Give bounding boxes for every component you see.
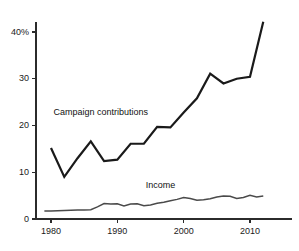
series-line-campaign-contributions xyxy=(51,22,263,177)
series-label-income: Income xyxy=(146,180,176,190)
x-tick-label: 1990 xyxy=(97,226,137,236)
chart-container: 0 10 20 30 40% 1980 1990 2000 2010 Campa… xyxy=(0,0,299,251)
x-tick-label: 2010 xyxy=(230,226,270,236)
y-tick-label: 0 xyxy=(0,214,29,224)
series-label-campaign-contributions: Campaign contributions xyxy=(53,107,148,117)
x-tick-label: 1980 xyxy=(31,226,71,236)
y-tick-label: 40% xyxy=(0,27,29,37)
y-tick-label: 10 xyxy=(0,167,29,177)
series-line-income xyxy=(44,195,263,211)
y-tick-label: 30 xyxy=(0,73,29,83)
y-tick-label: 20 xyxy=(0,120,29,130)
chart-axes xyxy=(32,22,292,223)
line-chart-plot xyxy=(0,0,299,251)
x-tick-label: 2000 xyxy=(164,226,204,236)
